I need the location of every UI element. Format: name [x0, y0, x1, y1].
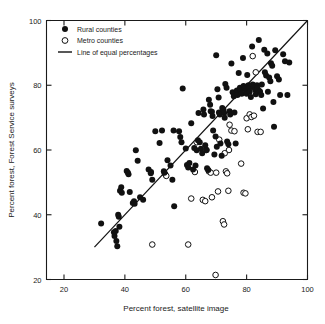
- scatter-plot-figure: 2040608010020406080100 Rural countiesMet…: [0, 0, 325, 324]
- data-point-rural: [267, 78, 273, 84]
- y-tick-label: 80: [33, 81, 41, 90]
- data-point-rural: [171, 128, 177, 134]
- data-point-metro: [232, 128, 238, 134]
- data-point-rural: [211, 152, 217, 158]
- data-point-metro: [213, 170, 219, 176]
- data-point-rural: [113, 238, 119, 244]
- data-point-metro: [253, 70, 259, 76]
- data-point-rural: [183, 145, 189, 151]
- data-point-rural: [216, 95, 222, 101]
- data-point-rural: [188, 120, 194, 126]
- data-point-metro: [224, 171, 230, 177]
- data-point-metro: [215, 189, 221, 195]
- data-point-rural: [214, 144, 220, 150]
- data-point-rural: [148, 170, 154, 176]
- data-point-rural: [284, 92, 290, 98]
- chart-canvas: 2040608010020406080100 Rural countiesMet…: [0, 0, 325, 324]
- data-point-rural: [140, 197, 146, 203]
- data-point-rural: [214, 86, 220, 92]
- data-point-rural: [176, 128, 182, 134]
- data-point-rural: [114, 243, 120, 249]
- data-point-rural: [260, 106, 266, 112]
- x-axis-title: Percent forest, satellite image: [123, 304, 229, 313]
- data-point-rural: [233, 141, 239, 147]
- data-point-rural: [196, 110, 202, 116]
- data-point-rural: [192, 163, 198, 169]
- y-tick-label: 60: [33, 146, 41, 155]
- data-point-rural: [177, 134, 183, 140]
- data-point-rural: [269, 63, 275, 69]
- data-point-rural: [259, 82, 265, 88]
- legend-marker-rural: [62, 26, 68, 32]
- data-point-metro: [238, 161, 244, 167]
- data-point-rural: [240, 55, 246, 61]
- data-point-rural: [213, 133, 219, 139]
- data-point-metro: [202, 198, 208, 204]
- data-point-rural: [210, 128, 216, 134]
- data-point-rural: [272, 47, 278, 53]
- data-point-metro: [188, 196, 194, 202]
- data-point-metro: [185, 242, 191, 248]
- data-point-metro: [209, 194, 215, 200]
- data-point-rural: [264, 51, 270, 57]
- data-point-rural: [271, 124, 277, 130]
- data-point-metro: [213, 272, 219, 278]
- data-point-rural: [118, 184, 124, 190]
- x-tick-label: 40: [121, 285, 129, 294]
- data-point-rural: [244, 72, 250, 78]
- data-point-rural: [224, 85, 230, 91]
- data-point-rural: [258, 92, 264, 98]
- data-point-rural: [228, 61, 234, 67]
- data-point-rural: [152, 128, 158, 134]
- data-point-rural: [280, 51, 286, 57]
- data-point-rural: [186, 160, 192, 166]
- data-point-rural: [126, 171, 132, 177]
- data-point-rural: [169, 177, 175, 183]
- x-tick-label: 80: [242, 285, 250, 294]
- y-tick-label: 40: [33, 211, 41, 220]
- data-point-rural: [132, 201, 138, 207]
- data-point-rural: [98, 220, 104, 226]
- data-point-rural: [159, 128, 165, 134]
- data-point-rural: [286, 60, 292, 66]
- data-point-rural: [236, 70, 242, 76]
- data-point-rural: [157, 140, 163, 146]
- x-tick-label: 100: [301, 285, 314, 294]
- data-point-rural: [180, 85, 186, 91]
- data-point-rural: [277, 92, 283, 98]
- data-point-rural: [149, 177, 155, 183]
- data-point-rural: [276, 76, 282, 82]
- data-point-rural: [161, 170, 167, 176]
- data-point-rural: [135, 158, 141, 164]
- data-point-rural: [213, 52, 219, 58]
- legend-label: Metro counties: [77, 37, 123, 44]
- data-point-rural: [197, 139, 203, 145]
- legend-marker-metro: [62, 38, 68, 44]
- y-axis-title: Percent forest, Forest Service surveys: [7, 82, 16, 218]
- y-tick-label: 20: [33, 276, 41, 285]
- legend-label: Rural counties: [77, 26, 122, 33]
- data-point-rural: [222, 115, 228, 121]
- data-point-rural: [247, 89, 253, 95]
- data-point-rural: [256, 37, 262, 43]
- data-point-metro: [221, 222, 227, 228]
- data-point-metro: [245, 126, 251, 132]
- data-point-rural: [265, 89, 271, 95]
- data-point-rural: [116, 224, 122, 230]
- data-point-rural: [164, 157, 170, 163]
- data-point-metro: [258, 129, 264, 135]
- data-point-rural: [205, 167, 211, 173]
- data-point-rural: [207, 102, 213, 108]
- data-point-rural: [225, 141, 231, 147]
- data-point-rural: [116, 214, 122, 220]
- data-point-rural: [219, 153, 225, 159]
- data-point-rural: [178, 139, 184, 145]
- x-tick-label: 20: [60, 285, 68, 294]
- data-point-rural: [119, 190, 125, 196]
- data-point-rural: [231, 109, 237, 115]
- data-point-rural: [249, 43, 255, 49]
- data-point-rural: [210, 113, 216, 119]
- data-point-metro: [251, 113, 257, 119]
- data-point-rural: [168, 163, 174, 169]
- data-point-metro: [227, 122, 233, 128]
